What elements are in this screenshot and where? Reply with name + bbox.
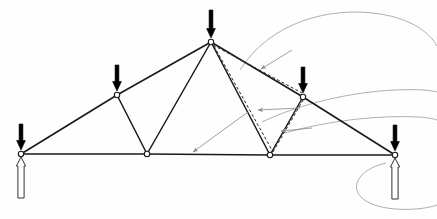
leader-arrows-group — [193, 50, 312, 152]
node-right-top-chord-node — [300, 94, 305, 99]
support-reactions-group — [16, 157, 399, 199]
leader-curve-upper-right — [240, 12, 437, 70]
node-right-support-node — [392, 152, 397, 157]
truss-diagram-canvas: Statically loaded planar roof truss with… — [0, 0, 437, 219]
reaction-arrow-right — [390, 158, 399, 199]
applied-loads-group — [17, 10, 400, 151]
leader-curves-group — [240, 12, 437, 209]
node-right-bottom-chord-node — [267, 152, 272, 157]
member-B-C — [117, 42, 211, 95]
truss-svg-root — [0, 0, 437, 219]
load-arrow-left-top — [113, 65, 122, 91]
leader-curve-mid-right — [262, 90, 437, 122]
member-B-D — [117, 95, 147, 154]
load-arrow-left-support — [17, 124, 26, 150]
dashed-bottom-right-to-top — [273, 95, 306, 152]
load-arrow-right-top — [299, 67, 308, 93]
leader-arrow-to-bottom-chord — [193, 112, 248, 152]
node-left-bottom-chord-node — [144, 151, 149, 156]
load-arrow-apex — [207, 10, 216, 38]
node-left-support-node — [18, 151, 23, 156]
member-D-C — [147, 42, 211, 154]
member-E-F — [270, 97, 303, 155]
truss-members-group — [21, 42, 395, 155]
member-F-G — [303, 97, 395, 155]
leader-arrow-to-top-chord — [261, 50, 292, 69]
node-apex-node — [208, 39, 213, 44]
reaction-arrow-left — [16, 157, 25, 198]
node-left-top-chord-node — [114, 92, 119, 97]
load-arrow-right-support — [391, 125, 400, 151]
truss-nodes-group — [18, 39, 397, 157]
leader-curve-lower-right — [285, 117, 437, 133]
member-D-E — [147, 154, 270, 155]
member-A-B — [21, 95, 117, 154]
